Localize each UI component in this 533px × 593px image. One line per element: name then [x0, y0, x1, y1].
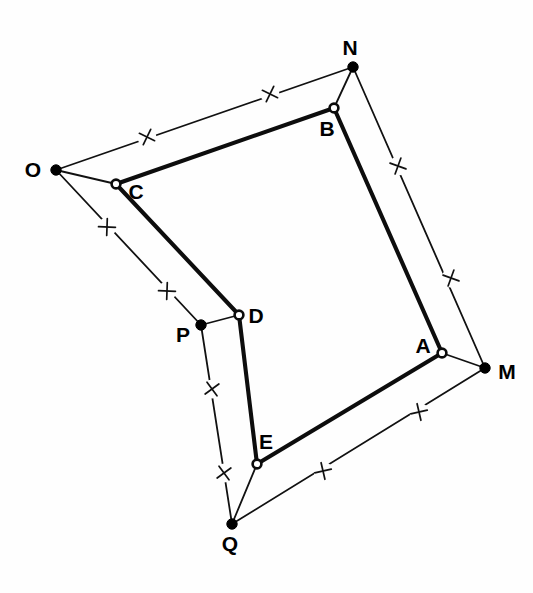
vertex-n-filled	[348, 62, 358, 72]
point-label-c: C	[128, 180, 143, 203]
vertex-b-hollow	[330, 104, 339, 113]
geometry-canvas: NBOCDPAMEQ	[0, 0, 533, 593]
vertex-m-filled	[480, 363, 490, 373]
point-label-b: B	[319, 117, 334, 140]
vertex-c-hollow	[112, 180, 121, 189]
point-label-p: P	[176, 323, 190, 346]
point-label-d: D	[248, 304, 263, 327]
point-label-n: N	[342, 36, 357, 59]
point-label-q: Q	[222, 532, 238, 555]
vertex-q-filled	[227, 519, 237, 529]
vertex-o-filled	[51, 165, 61, 175]
point-label-o: O	[25, 158, 41, 181]
point-label-e: E	[259, 430, 273, 453]
vertex-p-filled	[196, 320, 206, 330]
vertex-a-hollow	[438, 349, 447, 358]
vertex-d-hollow	[235, 311, 244, 320]
vertex-e-hollow	[253, 460, 262, 469]
point-label-a: A	[415, 334, 430, 357]
geometry-figure: NBOCDPAMEQ	[0, 0, 533, 593]
point-label-m: M	[498, 360, 516, 383]
